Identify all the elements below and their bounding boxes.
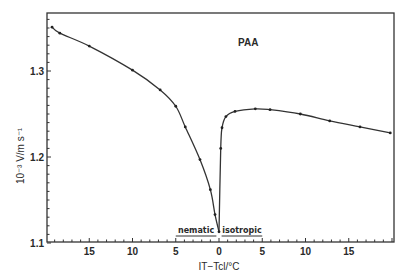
phase-label: isotropic — [222, 226, 262, 235]
x-tick-label: 10 — [127, 246, 139, 257]
x-tick-label: 5 — [173, 246, 179, 257]
x-tick-label: 15 — [84, 246, 96, 257]
plot-frame — [47, 13, 394, 242]
chart-title: PAA — [238, 37, 258, 48]
y-tick-label: 1.3 — [30, 66, 44, 77]
x-tick-label: 10 — [300, 246, 312, 257]
x-tick-label: 5 — [259, 246, 265, 257]
chart: 151050510151.11.21.3 PAA IT−Tcl/°C 10⁻³ … — [0, 0, 413, 280]
y-axis-label: 10⁻³ V/m s⁻¹ — [15, 127, 26, 184]
data-series-paa — [51, 26, 392, 233]
phase-label: nematic — [178, 226, 214, 235]
y-tick-label: 1.2 — [30, 152, 44, 163]
axis-ticks: 151050510151.11.21.3 — [30, 19, 392, 257]
y-tick-label: 1.1 — [30, 238, 44, 249]
x-axis-label: IT−Tcl/°C — [199, 261, 240, 272]
x-tick-label: 15 — [343, 246, 355, 257]
x-tick-label: 0 — [216, 246, 222, 257]
